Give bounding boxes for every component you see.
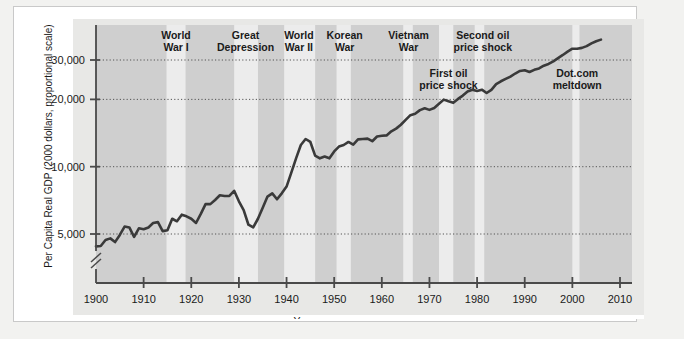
x-tick-label: 1930 <box>227 293 251 305</box>
annotation-text-line: Second oil <box>456 29 509 41</box>
y-tick-label: 10,000 <box>51 161 85 173</box>
annotation-label: WorldWar II <box>284 29 314 53</box>
y-tick-label: 5,000 <box>57 228 85 240</box>
event-band <box>439 25 453 283</box>
annotation-text-line: War II <box>285 41 313 53</box>
annotation-label: WorldWar I <box>161 29 191 53</box>
event-band <box>403 25 413 283</box>
x-axis-title: Year <box>293 315 315 319</box>
x-tick-label: 1970 <box>417 293 441 305</box>
x-tick-label: 1990 <box>512 293 536 305</box>
x-tick-label: 1940 <box>274 293 298 305</box>
annotation-text-line: Great <box>232 29 260 41</box>
annotation-text-line: World <box>161 29 191 41</box>
x-tick-label: 1910 <box>131 293 155 305</box>
x-tick-label: 2010 <box>608 293 632 305</box>
annotation-label: Dot.commeltdown <box>553 67 602 91</box>
event-band <box>284 25 315 283</box>
y-tick-label: 20,000 <box>51 93 85 105</box>
plot-area <box>96 25 632 283</box>
x-tick-label: 2000 <box>560 293 584 305</box>
figure-container: 5,00010,00020,00030,00019001910192019301… <box>36 19 644 319</box>
annotation-text-line: Korean <box>327 29 363 41</box>
x-tick-label: 1980 <box>465 293 489 305</box>
x-tick-label: 1960 <box>370 293 394 305</box>
annotation-label: Second oilprice shock <box>454 29 513 53</box>
annotation-text-line: Vietnam <box>388 29 429 41</box>
annotation-text-line: First oil <box>430 67 468 79</box>
annotation-text-line: War I <box>163 41 188 53</box>
annotation-text-line: Depression <box>217 41 274 53</box>
event-band <box>572 25 579 283</box>
annotation-text-line: meltdown <box>553 79 602 91</box>
event-band <box>337 25 351 283</box>
x-tick-label: 1920 <box>179 293 203 305</box>
y-axis-title: Per Capita Real GDP (2000 dollars, propo… <box>43 24 54 267</box>
event-band <box>167 25 186 283</box>
annotation-text-line: price shock <box>419 79 478 91</box>
y-tick-label: 30,000 <box>51 54 85 66</box>
annotation-text-line: War <box>335 41 354 53</box>
gdp-line-chart: 5,00010,00020,00030,00019001910192019301… <box>36 19 644 319</box>
figure-page-card: 5,00010,00020,00030,00019001910192019301… <box>13 6 637 322</box>
annotation-text-line: price shock <box>454 41 513 53</box>
event-band <box>475 25 485 283</box>
annotation-text-line: Dot.com <box>556 67 598 79</box>
annotation-text-line: World <box>284 29 314 41</box>
x-tick-label: 1900 <box>84 293 108 305</box>
annotation-text-line: War <box>399 41 418 53</box>
event-band <box>234 25 258 283</box>
x-tick-label: 1950 <box>322 293 346 305</box>
screenshot-root: 5,00010,00020,00030,00019001910192019301… <box>0 0 684 339</box>
